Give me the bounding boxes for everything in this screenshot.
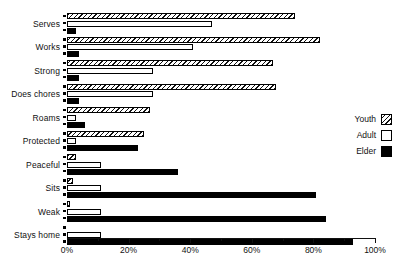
x-axis-tick-label: 100% bbox=[364, 245, 386, 255]
category-tick-marks bbox=[63, 177, 66, 201]
x-axis-tick-label: 20% bbox=[120, 245, 137, 255]
bar-adult bbox=[67, 115, 76, 121]
x-axis-minor-tick bbox=[221, 238, 222, 241]
x-axis-tick bbox=[129, 238, 130, 243]
bar-adult bbox=[67, 21, 212, 27]
bar-elder bbox=[67, 75, 79, 81]
legend-label-youth: Youth bbox=[355, 114, 376, 124]
legend-item-elder: Elder bbox=[300, 144, 392, 158]
bar-adult bbox=[67, 185, 101, 191]
x-axis-tick-label: 0% bbox=[61, 245, 73, 255]
bar-youth bbox=[67, 178, 73, 184]
bar-row: Works bbox=[67, 36, 375, 60]
category-tick-marks bbox=[63, 106, 66, 130]
category-label: Peaceful bbox=[0, 153, 60, 177]
empty-swatch-icon bbox=[381, 130, 392, 141]
bar-youth bbox=[67, 107, 150, 113]
x-axis-tick bbox=[190, 238, 191, 243]
x-axis-tick bbox=[313, 238, 314, 243]
category-tick-marks bbox=[63, 130, 66, 154]
bar-row: Stays home bbox=[67, 224, 375, 248]
bar-youth bbox=[67, 37, 320, 43]
bar-row: Strong bbox=[67, 59, 375, 83]
bar-adult bbox=[67, 44, 193, 50]
bar-adult bbox=[67, 162, 101, 168]
category-label: Roams bbox=[0, 106, 60, 130]
category-label: Works bbox=[0, 36, 60, 60]
category-label: Does chores bbox=[0, 83, 60, 107]
solid-swatch-icon bbox=[381, 146, 392, 157]
legend-item-youth: Youth bbox=[300, 112, 392, 126]
category-tick-marks bbox=[63, 59, 66, 83]
x-axis-minor-tick bbox=[159, 238, 160, 241]
bar-row: Weak bbox=[67, 200, 375, 224]
x-axis-tick-label: 60% bbox=[243, 245, 260, 255]
bar-elder bbox=[67, 51, 79, 57]
legend-label-adult: Adult bbox=[357, 130, 376, 140]
bar-elder bbox=[67, 216, 326, 222]
x-axis-minor-tick bbox=[344, 238, 345, 241]
category-label: Weak bbox=[0, 200, 60, 224]
x-axis-minor-tick bbox=[283, 238, 284, 241]
category-tick-marks bbox=[63, 153, 66, 177]
category-tick-marks bbox=[63, 224, 66, 248]
bar-elder bbox=[67, 169, 178, 175]
horizontal-bar-chart: ServesWorksStrongDoes choresRoamsProtect… bbox=[0, 0, 399, 267]
bar-elder bbox=[67, 192, 316, 198]
bar-row: Serves bbox=[67, 12, 375, 36]
category-tick-marks bbox=[63, 83, 66, 107]
x-axis-tick bbox=[67, 238, 68, 243]
x-axis-minor-tick bbox=[98, 238, 99, 241]
x-axis-tick-label: 40% bbox=[182, 245, 199, 255]
bar-youth bbox=[67, 131, 144, 137]
bar-elder bbox=[67, 145, 138, 151]
x-axis-tick bbox=[375, 238, 376, 243]
bar-youth bbox=[67, 13, 295, 19]
bar-row: Does chores bbox=[67, 83, 375, 107]
category-label: Stays home bbox=[0, 224, 60, 248]
bar-adult bbox=[67, 91, 153, 97]
category-label: Sits bbox=[0, 177, 60, 201]
bar-adult bbox=[67, 138, 76, 144]
bar-youth bbox=[67, 201, 70, 207]
chart-legend: Youth Adult Elder bbox=[300, 112, 392, 160]
x-axis-tick-label: 80% bbox=[305, 245, 322, 255]
legend-label-elder: Elder bbox=[356, 146, 376, 156]
bar-elder bbox=[67, 98, 79, 104]
bar-adult bbox=[67, 68, 153, 74]
category-label: Strong bbox=[0, 59, 60, 83]
x-axis-tick bbox=[252, 238, 253, 243]
bar-row: Sits bbox=[67, 177, 375, 201]
bar-elder bbox=[67, 28, 76, 34]
bar-elder bbox=[67, 122, 85, 128]
bar-adult bbox=[67, 209, 101, 215]
category-tick-marks bbox=[63, 200, 66, 224]
hatched-swatch-icon bbox=[381, 114, 392, 125]
category-label: Protected bbox=[0, 130, 60, 154]
category-label: Serves bbox=[0, 12, 60, 36]
legend-item-adult: Adult bbox=[300, 128, 392, 142]
category-tick-marks bbox=[63, 12, 66, 36]
bar-youth bbox=[67, 60, 273, 66]
bar-youth bbox=[67, 84, 276, 90]
bar-youth bbox=[67, 154, 76, 160]
category-tick-marks bbox=[63, 36, 66, 60]
